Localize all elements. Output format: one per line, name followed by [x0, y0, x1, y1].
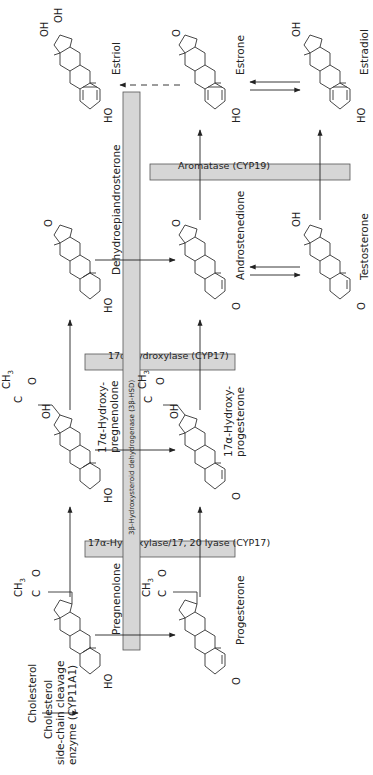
estriol-oh-1: OH — [39, 22, 50, 37]
pregnenolone-ho: HO — [103, 673, 114, 689]
17oh-pregnenolone-ch3: CH3 — [1, 370, 15, 389]
pregnenolone-c: C — [31, 590, 42, 597]
17oh-progesterone-label-2: progesterone — [234, 387, 246, 457]
17oh-pregnenolone-oh: OH — [41, 404, 52, 419]
3b-hsd-label: 3β-Hydroxysteroid dehydrogenase (3β-HSD) — [128, 380, 136, 535]
estrone-o: O — [171, 29, 182, 37]
estrone-structure — [179, 35, 225, 109]
17oh-progesterone-o-keto: O — [155, 377, 166, 385]
cyp17-lyase-label: 17α-Hydroxylase/17, 20 lyase (CYP17) — [88, 537, 270, 548]
progesterone-ch3: CH3 — [141, 578, 155, 597]
estriol-label: Estriol — [110, 42, 122, 75]
estradiol-ho: HO — [356, 107, 367, 123]
androstenedione-structure — [179, 225, 225, 299]
cholesterol-label: Cholesterol — [26, 664, 38, 723]
17oh-pregnenolone-ho: HO — [103, 487, 114, 503]
estriol-structure — [54, 35, 100, 109]
17oh-pregnenolone-c: C — [13, 396, 24, 403]
aromatase-label: Aromatase (CYP19) — [178, 160, 270, 171]
17oh-progesterone-label-1: 17α-Hydroxy- — [222, 386, 234, 457]
dhea-ho: HO — [103, 297, 114, 313]
cyp17-hydroxylase-enzyme-box: 17α-Hydroxylase (CYP17) — [85, 350, 235, 370]
17oh-pregnenolone-label-2: pregnenolone — [108, 380, 120, 453]
3b-hsd-enzyme-box: 3β-Hydroxysteroid dehydrogenase (3β-HSD) — [123, 92, 140, 650]
testosterone-structure — [304, 225, 350, 299]
progesterone-label: Progesterone — [234, 576, 246, 645]
17oh-progesterone-c: C — [143, 396, 154, 403]
progesterone-structure — [173, 592, 225, 674]
dhea-structure — [54, 225, 100, 299]
17oh-progesterone-oh: OH — [169, 404, 180, 419]
estriol-oh-2: OH — [53, 8, 64, 23]
17oh-pregnenolone-label-1: 17α-Hydroxy- — [96, 382, 108, 453]
pregnenolone-label: Pregnenolone — [110, 563, 122, 635]
17oh-pregnenolone-o: O — [27, 377, 38, 385]
estradiol-structure — [304, 35, 350, 109]
testosterone-oh: OH — [291, 212, 302, 227]
cyp11a1-line-2: side-chain cleavage — [54, 661, 66, 765]
testosterone-o: O — [356, 302, 367, 310]
androstenedione-o: O — [231, 302, 242, 310]
androstenedione-o-17: O — [171, 219, 182, 227]
cyp11a1-line-3: enzyme (CYP11A1) — [66, 665, 78, 765]
cyp11a1-line-1: Cholesterol — [42, 680, 54, 739]
pregnenolone-ch3: CH3 — [13, 578, 27, 597]
estrone-ho: HO — [231, 107, 242, 123]
progesterone-o-keto: O — [157, 569, 168, 577]
estriol-ho: HO — [103, 107, 114, 123]
progesterone-c: C — [157, 590, 168, 597]
cyp17-lyase-enzyme-box: 17α-Hydroxylase/17, 20 lyase (CYP17) — [85, 537, 270, 557]
dhea-label: Dehydroepiandrosterone — [110, 144, 122, 275]
dhea-o: O — [43, 219, 54, 227]
steroidogenesis-diagram: Cholesterol Cholesterol side-chain cleav… — [0, 0, 373, 775]
testosterone-label: Testosterone — [358, 213, 370, 281]
androstenedione-label: Androstenedione — [234, 191, 246, 280]
estrone-label: Estrone — [234, 35, 246, 75]
pregnenolone-o: O — [31, 569, 42, 577]
estradiol-oh: OH — [291, 22, 302, 37]
estradiol-label: Estradiol — [358, 29, 370, 75]
progesterone-o: O — [231, 677, 242, 685]
17oh-progesterone-o: O — [231, 492, 242, 500]
